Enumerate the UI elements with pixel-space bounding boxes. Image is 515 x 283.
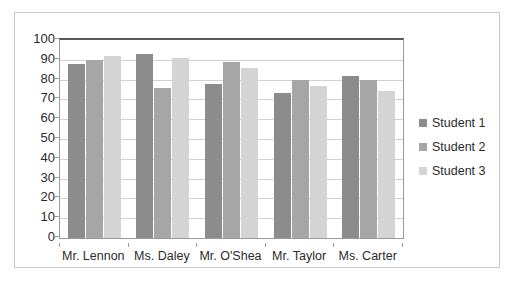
y-axis-tick-label: 0 [15,230,55,243]
bar [154,88,171,238]
x-axis-tick-label: Ms. Carter [339,249,397,263]
legend-swatch-icon [419,119,427,127]
legend-item-label: Student 2 [432,140,486,154]
bar [241,68,258,238]
chart-legend: Student 1Student 2Student 3 [419,111,499,183]
x-axis-tick-mark [402,243,403,247]
bar-group [334,40,403,238]
bar [223,62,240,238]
y-axis-tick-label: 30 [15,170,55,183]
x-axis-tick-mark [265,243,266,247]
bar [292,80,309,238]
bar [378,91,395,238]
chart-frame: 0102030405060708090100 Mr. LennonMs. Dal… [14,12,500,268]
x-axis-tick-label: Mr. O'Shea [199,249,261,263]
bar [68,64,85,238]
x-axis-tick-mark [196,243,197,247]
legend-swatch-icon [419,143,427,151]
y-axis-tick-label: 100 [15,32,55,45]
y-axis-tick-label: 50 [15,131,55,144]
y-axis-tick-label: 10 [15,210,55,223]
bar [310,86,327,238]
y-axis-tick-label: 40 [15,150,55,163]
bar [342,76,359,238]
bar [172,58,189,238]
x-axis: Mr. LennonMs. DaleyMr. O'SheaMr. TaylorM… [59,243,404,263]
bar [136,54,153,238]
bar [274,93,291,238]
legend-item: Student 3 [419,159,499,183]
y-axis: 0102030405060708090100 [15,38,55,239]
bar [104,56,121,238]
y-axis-tick-label: 70 [15,91,55,104]
bar [86,60,103,238]
y-axis-tick-label: 80 [15,71,55,84]
x-axis-tick-label: Mr. Lennon [62,249,125,263]
legend-item: Student 2 [419,135,499,159]
bar-group [266,40,335,238]
x-axis-tick-label: Ms. Daley [134,249,190,263]
legend-item-label: Student 1 [432,116,486,130]
x-axis-tick-mark [333,243,334,247]
bar [360,80,377,238]
x-axis-tick-mark [59,243,60,247]
legend-item-label: Student 3 [432,164,486,178]
legend-item: Student 1 [419,111,499,135]
bar-group [60,40,129,238]
y-axis-tick-label: 60 [15,111,55,124]
bar-group [197,40,266,238]
legend-swatch-icon [419,167,427,175]
y-axis-tick-label: 90 [15,51,55,64]
x-axis-tick-label: Mr. Taylor [272,249,326,263]
bar [205,84,222,238]
bar-group [129,40,198,238]
plot-area [59,38,404,239]
x-axis-tick-mark [128,243,129,247]
y-axis-tick-label: 20 [15,190,55,203]
